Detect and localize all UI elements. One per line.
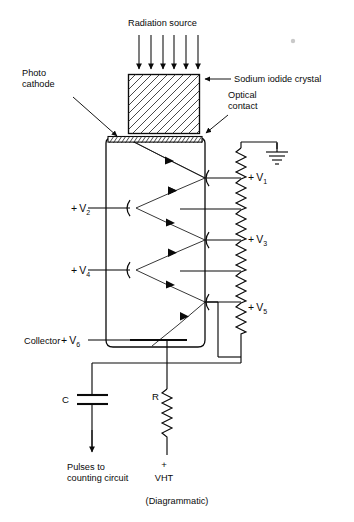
- diagonal-pointer-icon: [206, 115, 228, 133]
- vht-polarity-sign: +: [161, 459, 167, 470]
- pulses-label-line1: Pulses to: [67, 462, 105, 472]
- dynode-group-left: [127, 200, 130, 278]
- voltage-label-v1: +V1: [248, 171, 267, 185]
- voltage-labels-left: +V2 +V4 Collector +V6: [24, 202, 90, 348]
- output-wiring: [92, 302, 241, 395]
- voltage-label-v3: +V3: [248, 233, 267, 247]
- resistor-label: R: [152, 391, 159, 402]
- output-pulses: Pulses to counting circuit: [67, 430, 129, 483]
- optical-contact-callout: Optical contact: [206, 90, 258, 133]
- sodium-iodide-crystal: [122, 60, 214, 144]
- voltage-label-v5: +V5: [248, 301, 267, 315]
- print-speck: [291, 39, 295, 43]
- electron-path-arrow-icon: [168, 249, 177, 258]
- voltage-labels-right: +V1 +V3 +V5: [248, 171, 267, 315]
- ground-icon: [266, 143, 288, 164]
- collector-label: Collector: [24, 336, 60, 346]
- vht-supply: + VHT: [155, 459, 174, 483]
- radiation-source-label: Radiation source: [128, 18, 197, 28]
- capacitor-label: C: [62, 394, 69, 405]
- radiation-arrows-group: [139, 35, 198, 69]
- photo-cathode-label-line2: cathode: [22, 79, 55, 89]
- voltage-label-v2: +V2: [71, 202, 90, 216]
- capacitor-icon: C: [62, 394, 108, 448]
- crystal-hatching: [122, 60, 214, 144]
- electron-path: [134, 142, 205, 346]
- voltage-label-v6: +V6: [61, 334, 80, 348]
- resistor-r: R: [152, 389, 172, 455]
- diagonal-pointer-icon: [73, 97, 117, 136]
- diagram-canvas: Radiation source: [0, 0, 354, 522]
- photo-cathode-label-line1: Photo: [22, 68, 46, 78]
- photo-cathode-element: [108, 133, 208, 145]
- optical-contact-label-line2: contact: [228, 101, 258, 111]
- sodium-iodide-crystal-callout: Sodium iodide crystal: [205, 74, 321, 84]
- sodium-iodide-crystal-label: Sodium iodide crystal: [234, 74, 321, 84]
- electron-path-arrow-icon: [165, 157, 174, 165]
- photo-cathode-callout: Photo cathode: [22, 68, 117, 136]
- pulses-label-line2: counting circuit: [67, 473, 129, 483]
- figure-caption: (Diagrammatic): [146, 496, 209, 506]
- vht-label: VHT: [155, 473, 174, 483]
- scintillation-counter-diagram: Radiation source: [0, 0, 354, 522]
- electron-path-arrow-icon-b: [168, 187, 177, 196]
- voltage-label-v4: +V4: [71, 264, 90, 278]
- optical-contact-label-line1: Optical: [228, 90, 257, 100]
- photomultiplier-envelope: [106, 138, 205, 347]
